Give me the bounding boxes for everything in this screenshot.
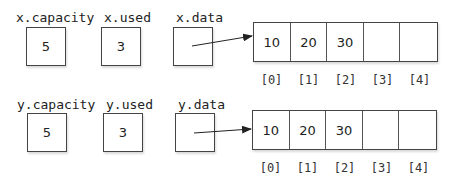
pointer-arrows [0, 0, 453, 185]
y-data-arrow-icon [194, 129, 251, 133]
x-data-arrow-icon [192, 36, 252, 46]
